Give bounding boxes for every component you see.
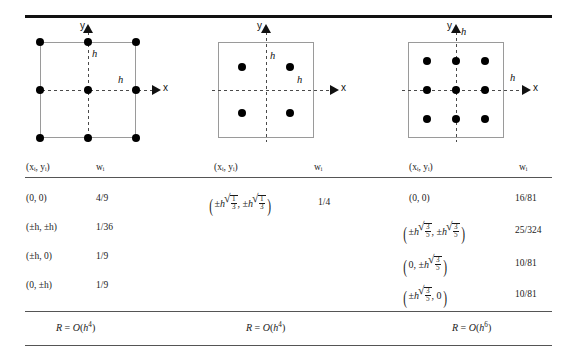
- left-paren: (: [403, 292, 407, 304]
- point-cell: (0, 0): [409, 194, 430, 204]
- h-label-vertical: h: [270, 50, 275, 61]
- error-symbol: R: [452, 322, 458, 333]
- y-axis-arrowhead: [451, 24, 461, 33]
- table-footer-rule-top: [25, 311, 552, 312]
- right-paren: ): [443, 261, 447, 273]
- h-label-vertical: h: [92, 48, 97, 59]
- left-paren: (: [403, 261, 407, 273]
- right-paren: ): [267, 200, 271, 212]
- x-axis-dashed-line: [402, 90, 522, 91]
- sqrt-icon: 35: [419, 222, 432, 240]
- point-expression: ±h35, 0: [409, 290, 442, 301]
- node-point: [132, 134, 140, 142]
- error-bigo: O: [469, 322, 476, 333]
- x-axis-label: x: [533, 82, 538, 93]
- point-cell: (0, ±h35): [402, 255, 448, 273]
- column-header-points-1: (xᵢ, yᵢ): [26, 163, 50, 173]
- weight-cell: 16/81: [515, 194, 537, 204]
- weight-cell: 25/324: [515, 226, 541, 236]
- y-axis-label: y: [257, 20, 262, 31]
- weight-cell: 1/4: [318, 198, 330, 208]
- h-label-horizontal: h: [510, 72, 515, 83]
- point-cell: (±h, 0): [26, 252, 52, 262]
- node-point: [423, 115, 431, 123]
- column-header-weights-1: wᵢ: [96, 163, 104, 173]
- node-diagram-simpson: y x h h: [22, 20, 198, 158]
- left-paren: (: [209, 200, 213, 212]
- error-equals: =: [255, 322, 261, 333]
- weight-cell: 1/9: [96, 281, 108, 291]
- column-header-points-3: (xᵢ, yᵢ): [409, 163, 433, 173]
- right-paren: ): [443, 292, 447, 304]
- node-point: [132, 38, 140, 46]
- x-axis-arrowhead: [522, 85, 531, 95]
- node-point: [36, 38, 44, 46]
- point-expression: ±h13, ±h13: [215, 198, 266, 209]
- quadrature-column-gauss2: y x h h: [198, 20, 374, 180]
- node-point: [452, 57, 460, 65]
- node-point: [452, 86, 460, 94]
- x-axis-arrowhead: [330, 85, 339, 95]
- error-symbol: R: [246, 322, 252, 333]
- sqrt-icon: 13: [253, 194, 266, 212]
- point-cell: (0, 0): [26, 194, 47, 204]
- node-point: [36, 134, 44, 142]
- weight-cell: 4/9: [96, 194, 108, 204]
- left-paren: (: [403, 228, 407, 240]
- node-point: [423, 57, 431, 65]
- h-label-vertical: h: [461, 26, 466, 37]
- column-header-weights-2: wᵢ: [314, 163, 322, 173]
- node-point: [84, 86, 92, 94]
- sqrt-icon: 13: [225, 194, 238, 212]
- node-point: [481, 57, 489, 65]
- column-header-weights-3: wᵢ: [519, 163, 527, 173]
- node-point: [84, 134, 92, 142]
- table-top-rule: [25, 15, 552, 18]
- point-cell: (±h, ±h): [26, 223, 57, 233]
- node-point: [452, 115, 460, 123]
- error-order-simpson: R = O(h4): [56, 321, 95, 333]
- node-point: [481, 86, 489, 94]
- node-point: [481, 115, 489, 123]
- point-cell: (±h13, ±h13): [208, 194, 272, 212]
- point-cell: (0, ±h): [26, 281, 52, 291]
- error-equals: =: [65, 322, 71, 333]
- sqrt-icon: 35: [447, 222, 460, 240]
- y-axis-label: y: [447, 20, 452, 31]
- point-expression: 0, ±h35: [409, 259, 442, 270]
- error-bigo: O: [263, 322, 270, 333]
- table-footer-rule-bottom: [25, 345, 552, 346]
- y-axis-dashed-line: [266, 32, 267, 142]
- node-point: [286, 63, 294, 71]
- node-point: [84, 38, 92, 46]
- weight-cell: 10/81: [515, 259, 537, 269]
- sqrt-icon: 35: [429, 255, 442, 273]
- weight-cell: 1/36: [96, 223, 113, 233]
- error-bigo: O: [73, 322, 80, 333]
- point-expression: ±h35, ±h35: [409, 226, 460, 237]
- h-label-horizontal: h: [118, 74, 123, 85]
- sqrt-icon: 35: [419, 286, 432, 304]
- point-cell: (±h35, ±h35): [402, 222, 466, 240]
- weight-cell: 10/81: [515, 290, 537, 300]
- error-symbol: R: [56, 322, 62, 333]
- error-equals: =: [461, 322, 467, 333]
- node-point: [238, 109, 246, 117]
- x-axis-dashed-line: [212, 90, 330, 91]
- x-axis-label: x: [163, 82, 168, 93]
- x-axis-arrowhead: [152, 85, 161, 95]
- node-point: [423, 86, 431, 94]
- error-order-gauss2: R = O(h4): [246, 321, 285, 333]
- y-axis-label: y: [80, 20, 85, 31]
- node-point: [238, 63, 246, 71]
- y-axis-arrowhead: [261, 24, 271, 33]
- node-diagram-gauss2: y x h h: [198, 20, 374, 158]
- node-point: [286, 109, 294, 117]
- h-label-horizontal: h: [297, 74, 302, 85]
- quadrature-column-simpson: y x h h: [22, 20, 198, 180]
- quadrature-column-gauss3: y x h h: [380, 20, 556, 180]
- weight-cell: 1/9: [96, 252, 108, 262]
- node-diagram-gauss3: y x h h: [380, 20, 556, 158]
- column-header-points-2: (xᵢ, yᵢ): [214, 163, 238, 173]
- error-order-gauss3: R = O(h6): [452, 321, 491, 333]
